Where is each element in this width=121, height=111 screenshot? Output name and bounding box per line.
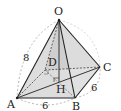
- point-A: [16, 97, 18, 99]
- label-H: H: [56, 83, 66, 96]
- pyramid-diagram: O A B C D H 8 6 6: [0, 0, 121, 111]
- label-C: C: [103, 61, 111, 74]
- label-B: B: [72, 100, 80, 111]
- label-D: D: [48, 56, 57, 69]
- measure-BC: 6: [91, 82, 97, 93]
- label-O: O: [54, 5, 63, 18]
- label-A: A: [6, 98, 16, 111]
- point-O: [58, 19, 60, 21]
- measure-AB: 6: [42, 100, 48, 111]
- measure-OA: 8: [23, 52, 29, 63]
